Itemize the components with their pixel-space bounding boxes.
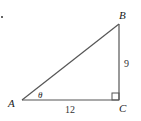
angle-label-theta: θ [38,90,43,100]
triangle-diagram: A B C θ 9 12 [0,0,141,121]
marker-dot [1,16,3,18]
hypotenuse-ab [22,24,119,100]
vertex-label-a: A [7,97,15,109]
side-label-bc: 9 [124,58,129,69]
vertex-label-b: B [119,9,126,21]
side-label-ac: 12 [65,104,75,115]
right-angle-marker [112,93,119,100]
vertex-label-c: C [119,102,127,114]
